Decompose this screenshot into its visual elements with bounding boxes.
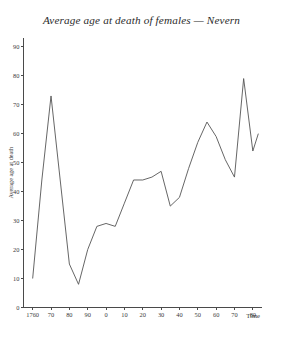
- x-axis-title: Time: [246, 312, 260, 319]
- x-tick-label: 50: [195, 311, 201, 318]
- x-tick-label: 1760: [26, 311, 39, 318]
- y-tick-label: 50: [13, 159, 19, 166]
- y-tick-label: 0: [16, 304, 19, 311]
- data-series-line: [33, 79, 259, 285]
- axis-tick-marks: [21, 47, 253, 310]
- x-tick-label: 40: [176, 311, 182, 318]
- y-tick-label: 30: [13, 217, 19, 224]
- y-tick-label: 10: [13, 275, 19, 282]
- y-tick-label: 70: [13, 101, 19, 108]
- y-tick-label: 90: [13, 43, 19, 50]
- chart-figure: Average age at death of females — Nevern…: [0, 0, 283, 341]
- y-tick-label: 40: [13, 188, 19, 195]
- line-chart-plot: 0102030405060708090 17607080900102030405…: [0, 0, 283, 341]
- x-tick-label: 70: [48, 311, 54, 318]
- x-tick-label: 30: [158, 311, 164, 318]
- x-tick-label: 70: [231, 311, 237, 318]
- y-axis-title: Average age at death: [7, 146, 14, 198]
- x-tick-label: 10: [121, 311, 127, 318]
- x-tick-label: 0: [104, 311, 107, 318]
- y-tick-label: 80: [13, 72, 19, 79]
- x-tick-label: 90: [85, 311, 91, 318]
- y-tick-label: 60: [13, 130, 19, 137]
- x-axis-tick-labels: 176070809001020304050607080: [26, 311, 256, 318]
- x-tick-label: 60: [213, 311, 219, 318]
- y-tick-label: 20: [13, 246, 19, 253]
- x-tick-label: 20: [140, 311, 146, 318]
- x-tick-label: 80: [66, 311, 72, 318]
- y-axis-tick-labels: 0102030405060708090: [13, 43, 19, 311]
